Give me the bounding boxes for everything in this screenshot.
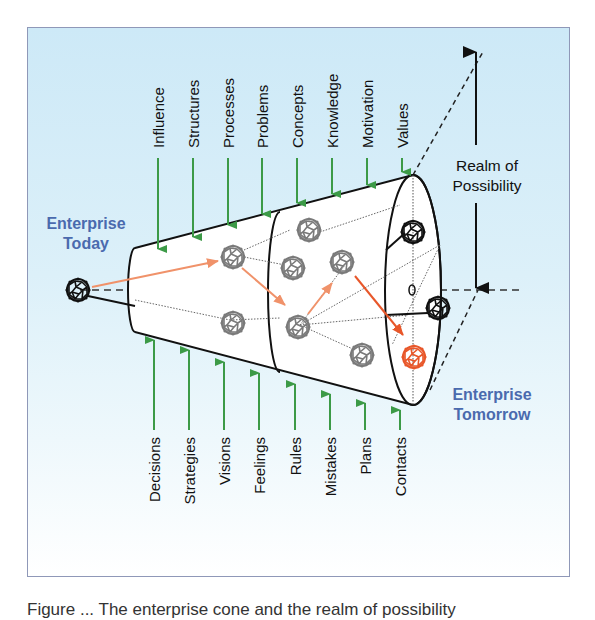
realm-of-possibility-label: Realm of Possibility: [453, 157, 522, 194]
force-label: Knowledge: [324, 74, 341, 148]
force-label: Motivation: [359, 80, 376, 148]
cone: [80, 175, 441, 405]
force-label: Processes: [220, 78, 237, 148]
force-label: Visions: [216, 437, 233, 485]
force-label: Plans: [357, 437, 374, 475]
figure-caption: Figure ... The enterprise cone and the r…: [27, 600, 456, 620]
force-label: Values: [394, 103, 411, 148]
svg-text:Enterprise: Enterprise: [46, 215, 125, 232]
svg-text:Today: Today: [63, 235, 109, 252]
svg-text:Possibility: Possibility: [453, 177, 522, 194]
svg-text:Tomorrow: Tomorrow: [453, 406, 531, 423]
svg-text:Realm of: Realm of: [456, 157, 519, 174]
enterprise-today-node: [65, 277, 90, 302]
force-label: Structures: [185, 80, 202, 148]
enterprise-today-label: Enterprise Today: [46, 215, 125, 252]
force-label: Influence: [150, 87, 167, 148]
force-label: Decisions: [146, 437, 163, 502]
force-label: Concepts: [289, 85, 306, 148]
bottom-force-labels: Decisions Strategies Visions Feelings Ru…: [146, 437, 409, 505]
force-label: Problems: [254, 85, 271, 148]
force-label: Contacts: [392, 437, 409, 496]
svg-text:Enterprise: Enterprise: [452, 386, 531, 403]
enterprise-tomorrow-label: Enterprise Tomorrow: [452, 386, 531, 423]
force-label: Rules: [287, 437, 304, 475]
top-force-labels: Influence Structures Processes Problems …: [150, 74, 411, 148]
force-label: Mistakes: [322, 437, 339, 496]
force-label: Strategies: [181, 437, 198, 505]
force-label: Feelings: [251, 437, 268, 494]
